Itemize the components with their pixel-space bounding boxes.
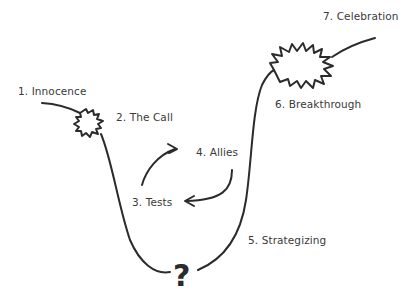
stage-label-breakthrough: 6. Breakthrough	[275, 98, 361, 110]
stage-label-the-call: 2. The Call	[116, 111, 173, 123]
stage-label-celebration: 7. Celebration	[323, 10, 398, 22]
tests-to-allies-arrow	[142, 149, 175, 185]
question-mark-icon: ?	[173, 258, 190, 293]
stage-label-tests: 3. Tests	[132, 196, 172, 208]
stage-label-strategizing: 5. Strategizing	[248, 234, 326, 246]
stage-label-allies: 4. Allies	[196, 146, 238, 158]
innocence-curve	[42, 103, 80, 113]
stage-label-innocence: 1. Innocence	[18, 85, 87, 97]
breakthrough-starburst-icon	[270, 43, 333, 88]
celebration-curve	[332, 38, 375, 57]
